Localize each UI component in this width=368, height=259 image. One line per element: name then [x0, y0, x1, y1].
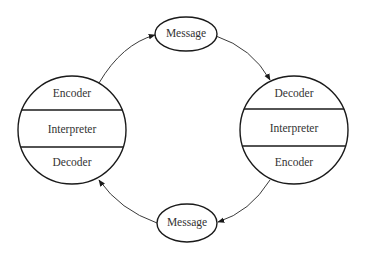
communication-diagram: Encoder Interpreter Decoder Decoder Inte…	[0, 0, 368, 259]
left-node-decoder-label: Decoder	[53, 156, 92, 168]
right-node-decoder-label: Decoder	[275, 87, 314, 99]
bottom-message-label: Message	[167, 216, 207, 229]
left-node-interpreter-label: Interpreter	[48, 123, 97, 136]
arrow-encoder-to-bottom-message	[218, 180, 270, 222]
right-node-encoder-label: Encoder	[275, 156, 313, 168]
bottom-message-node: Message	[157, 204, 217, 242]
arrow-bottom-message-to-decoder	[99, 180, 157, 223]
top-message-label: Message	[166, 27, 206, 40]
left-node: Encoder Interpreter Decoder	[10, 76, 135, 184]
arrow-top-message-to-decoder	[216, 36, 270, 80]
right-node: Decoder Interpreter Encoder	[232, 76, 356, 184]
top-message-node: Message	[155, 17, 217, 51]
arrow-encoder-to-top-message	[99, 35, 155, 83]
right-node-interpreter-label: Interpreter	[270, 122, 319, 135]
left-node-encoder-label: Encoder	[53, 87, 91, 99]
